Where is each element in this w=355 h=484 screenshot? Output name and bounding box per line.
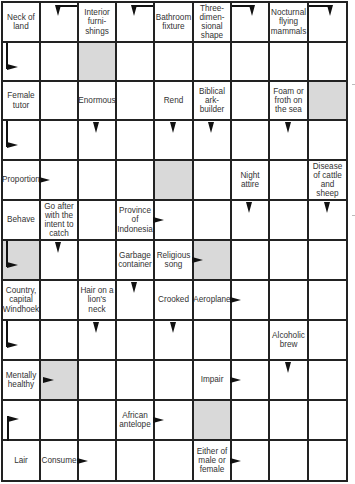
answer-cell[interactable]: [79, 161, 117, 201]
answer-cell[interactable]: [1, 401, 41, 441]
answer-cell[interactable]: [309, 201, 348, 241]
answer-cell[interactable]: [79, 361, 117, 401]
answer-cell[interactable]: [194, 121, 232, 161]
answer-cell[interactable]: [79, 201, 117, 241]
answer-cell[interactable]: [79, 241, 117, 281]
clue-text: Behave: [3, 201, 39, 239]
clue-cell: Garbage container: [117, 241, 155, 281]
answer-cell[interactable]: [270, 43, 309, 82]
answer-cell[interactable]: [232, 82, 270, 121]
clue-text: Either of male or female: [194, 441, 230, 480]
clue-text: Crooked: [155, 281, 192, 319]
answer-cell[interactable]: [309, 121, 348, 161]
answer-cell[interactable]: [232, 401, 270, 441]
answer-cell[interactable]: [41, 321, 79, 361]
answer-cell[interactable]: [117, 82, 155, 121]
answer-cell[interactable]: [79, 321, 117, 361]
answer-cell[interactable]: [41, 401, 79, 441]
answer-cell[interactable]: [117, 321, 155, 361]
answer-cell[interactable]: [270, 441, 309, 482]
answer-cell[interactable]: [194, 321, 232, 361]
answer-cell[interactable]: [270, 121, 309, 161]
answer-cell[interactable]: [232, 121, 270, 161]
answer-cell[interactable]: [309, 1, 348, 43]
answer-cell[interactable]: [270, 281, 309, 321]
arrow-right-icon: [153, 417, 164, 423]
answer-cell[interactable]: [41, 121, 79, 161]
arrow-down-icon: [93, 122, 99, 133]
answer-cell[interactable]: [270, 201, 309, 241]
answer-cell[interactable]: [155, 121, 194, 161]
answer-cell[interactable]: [117, 1, 155, 43]
answer-cell[interactable]: [309, 441, 348, 482]
clue-text: African antelope: [117, 401, 153, 439]
answer-cell[interactable]: [309, 43, 348, 82]
clue-cell: Bathroom fixture: [155, 1, 194, 43]
clue-cell: Nocturnal flying mammals: [270, 1, 309, 43]
clue-cell: Crooked: [155, 281, 194, 321]
answer-cell[interactable]: [232, 43, 270, 82]
answer-cell[interactable]: [194, 43, 232, 82]
answer-cell[interactable]: [270, 161, 309, 201]
answer-cell[interactable]: [79, 401, 117, 441]
answer-cell[interactable]: [155, 361, 194, 401]
answer-cell[interactable]: [117, 121, 155, 161]
answer-cell[interactable]: [309, 321, 348, 361]
clue-text: Mentally healthy: [3, 361, 39, 399]
arrow-down-icon: [93, 322, 99, 333]
clue-cell: Foam or froth on the sea: [270, 82, 309, 121]
answer-cell[interactable]: [232, 1, 270, 43]
clue-cell: Alcoholic brew: [270, 321, 309, 361]
answer-cell[interactable]: [41, 1, 79, 43]
clue-cell: Hair on a lion's neck: [79, 281, 117, 321]
answer-cell[interactable]: [117, 441, 155, 482]
answer-cell[interactable]: [41, 43, 79, 82]
answer-cell[interactable]: [79, 121, 117, 161]
clue-text: Alcoholic brew: [270, 321, 307, 359]
answer-cell[interactable]: [270, 241, 309, 281]
answer-cell[interactable]: [117, 43, 155, 82]
clue-text: Aeroplane: [194, 281, 230, 319]
clue-cell: Consume: [41, 441, 79, 482]
answer-cell[interactable]: [309, 281, 348, 321]
answer-cell[interactable]: [309, 401, 348, 441]
answer-cell[interactable]: [117, 161, 155, 201]
clue-text: Consume: [41, 441, 77, 480]
clue-cell: Interior furni-shings: [79, 1, 117, 43]
shaded-answer-cell[interactable]: [194, 401, 232, 441]
shaded-answer-cell[interactable]: [1, 241, 41, 281]
shaded-answer-cell[interactable]: [41, 361, 79, 401]
answer-cell[interactable]: [309, 241, 348, 281]
answer-cell[interactable]: [194, 201, 232, 241]
answer-cell[interactable]: [155, 43, 194, 82]
answer-cell[interactable]: [270, 401, 309, 441]
answer-cell[interactable]: [155, 441, 194, 482]
answer-cell[interactable]: [41, 241, 79, 281]
answer-cell[interactable]: [232, 201, 270, 241]
answer-cell[interactable]: [1, 121, 41, 161]
answer-cell[interactable]: [309, 361, 348, 401]
answer-cell[interactable]: [41, 82, 79, 121]
clue-cell: Aeroplane: [194, 281, 232, 321]
clue-cell: Behave: [1, 201, 41, 241]
arrow-down-icon: [55, 242, 61, 253]
shaded-answer-cell[interactable]: [79, 43, 117, 82]
clue-text: Night attire: [232, 161, 268, 199]
answer-cell[interactable]: [117, 281, 155, 321]
arrow-down-icon: [208, 122, 214, 133]
clue-cell: Lair: [1, 441, 41, 482]
shaded-answer-cell[interactable]: [309, 82, 348, 121]
answer-cell[interactable]: [232, 241, 270, 281]
answer-cell[interactable]: [194, 161, 232, 201]
answer-cell[interactable]: [1, 43, 41, 82]
arrow-down-icon: [170, 322, 176, 333]
answer-cell[interactable]: [232, 321, 270, 361]
shaded-answer-cell[interactable]: [155, 161, 194, 201]
answer-cell[interactable]: [117, 361, 155, 401]
answer-cell[interactable]: [1, 321, 41, 361]
answer-cell[interactable]: [41, 281, 79, 321]
answer-cell[interactable]: [155, 321, 194, 361]
answer-cell[interactable]: [270, 361, 309, 401]
clue-text: Province of Indonesia: [117, 201, 153, 239]
clue-cell: Rend: [155, 82, 194, 121]
